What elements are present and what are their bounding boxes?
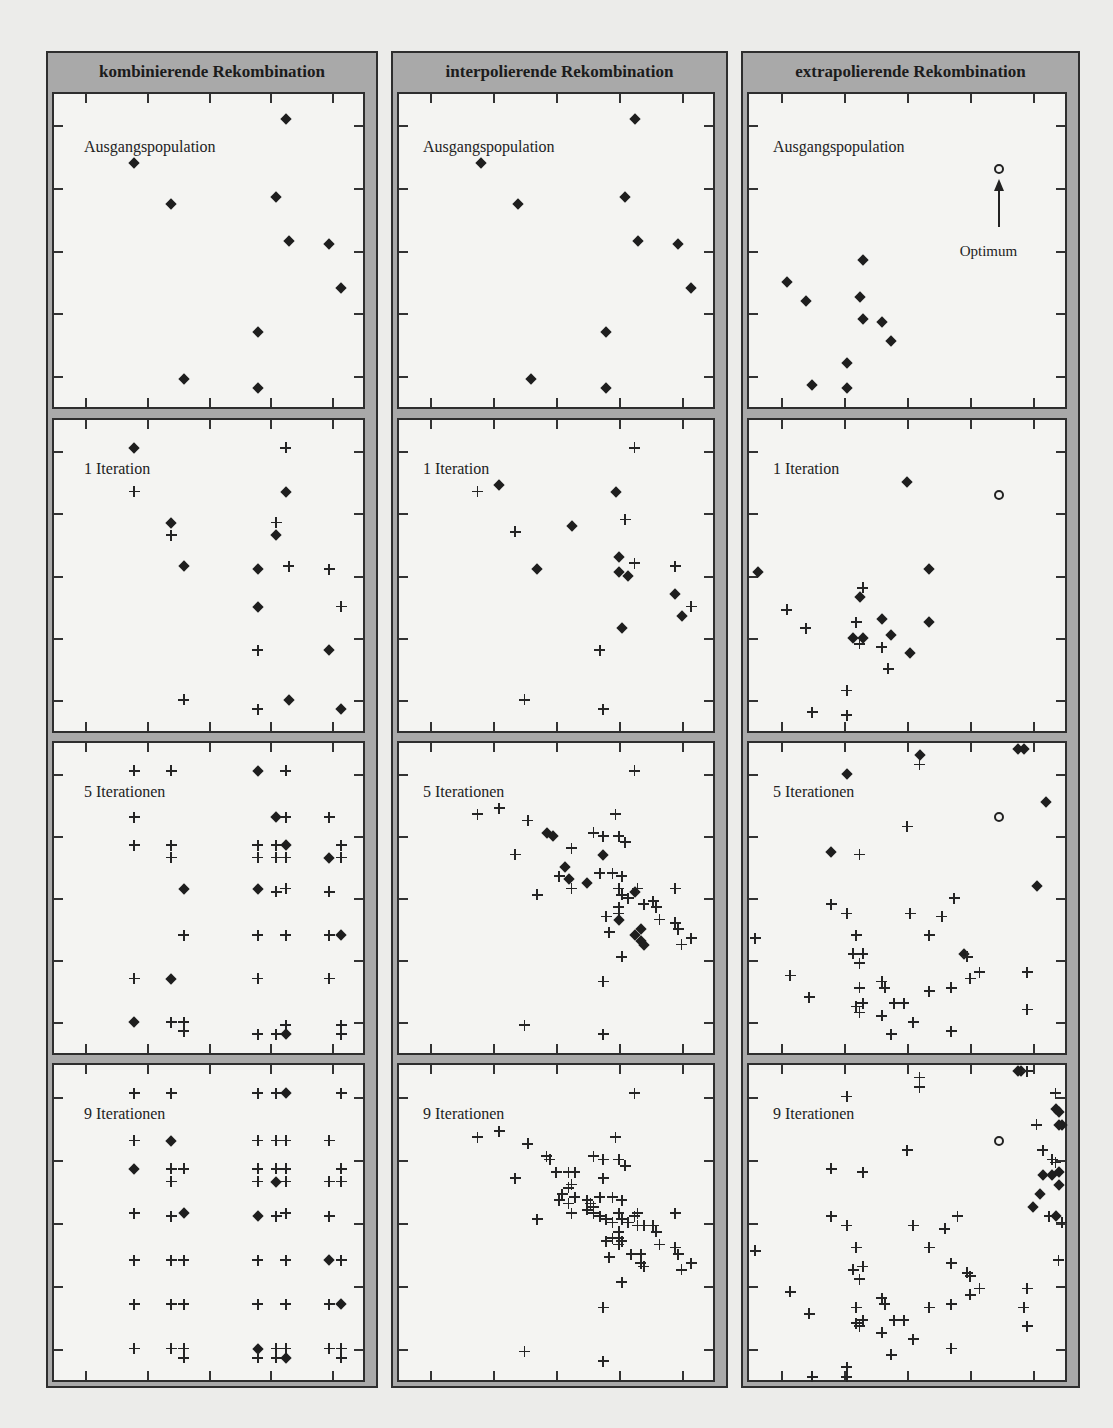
- x-tick: [970, 398, 972, 407]
- y-tick: [354, 188, 363, 190]
- y-tick: [354, 700, 363, 702]
- parent-diamond-marker: [525, 373, 536, 384]
- x-tick: [844, 722, 846, 731]
- x-tick: [1033, 420, 1035, 429]
- offspring-plus-marker: [924, 986, 935, 997]
- offspring-plus-marker: [1022, 967, 1033, 978]
- parent-diamond-marker: [129, 1016, 140, 1027]
- offspring-plus-marker: [129, 973, 140, 984]
- offspring-plus-marker: [673, 924, 684, 935]
- y-tick: [1056, 376, 1065, 378]
- parent-diamond-marker: [129, 157, 140, 168]
- offspring-plus-marker: [129, 1088, 140, 1099]
- y-tick: [354, 1286, 363, 1288]
- offspring-plus-marker: [324, 1176, 335, 1187]
- y-tick: [1056, 1349, 1065, 1351]
- offspring-plus-marker: [594, 645, 605, 656]
- offspring-plus-marker: [252, 1176, 263, 1187]
- scatter-panel-r4-c3: 9 Iterationen: [747, 1063, 1067, 1382]
- y-tick: [399, 125, 408, 127]
- parent-diamond-marker: [923, 564, 934, 575]
- x-tick: [1033, 94, 1035, 103]
- y-tick: [749, 638, 758, 640]
- offspring-plus-marker: [632, 883, 643, 894]
- offspring-plus-marker: [336, 1163, 347, 1174]
- x-tick: [332, 398, 334, 407]
- x-tick: [430, 94, 432, 103]
- offspring-plus-marker: [914, 759, 925, 770]
- figure-column-3: extrapolierende RekombinationAusgangspop…: [741, 51, 1080, 1388]
- x-tick: [493, 1065, 495, 1074]
- parent-diamond-marker: [252, 1211, 263, 1222]
- parent-diamond-marker: [283, 235, 294, 246]
- offspring-plus-marker: [178, 1352, 189, 1363]
- y-tick: [704, 960, 713, 962]
- parent-diamond-marker: [531, 564, 542, 575]
- parent-diamond-marker: [513, 198, 524, 209]
- y-tick: [354, 960, 363, 962]
- offspring-plus-marker: [898, 1315, 909, 1326]
- x-tick: [619, 398, 621, 407]
- parent-diamond-marker: [336, 930, 347, 941]
- iteration-label: 9 Iterationen: [423, 1105, 504, 1123]
- y-tick: [1056, 960, 1065, 962]
- y-tick: [1056, 638, 1065, 640]
- scatter-panel-r2-c2: 1 Iteration: [397, 418, 715, 733]
- parent-diamond-marker: [613, 551, 624, 562]
- x-tick: [493, 420, 495, 429]
- x-tick: [844, 743, 846, 752]
- offspring-plus-marker: [854, 638, 865, 649]
- iteration-label: 5 Iterationen: [773, 783, 854, 801]
- y-tick: [399, 836, 408, 838]
- y-tick: [749, 1349, 758, 1351]
- y-tick: [399, 638, 408, 640]
- x-tick: [556, 94, 558, 103]
- offspring-plus-marker: [841, 710, 852, 721]
- offspring-plus-marker: [974, 967, 985, 978]
- y-tick: [54, 251, 63, 253]
- y-tick: [399, 1349, 408, 1351]
- offspring-plus-marker: [129, 486, 140, 497]
- offspring-plus-marker: [962, 951, 973, 962]
- x-tick: [147, 94, 149, 103]
- offspring-plus-marker: [616, 1277, 627, 1288]
- parent-diamond-marker: [876, 317, 887, 328]
- x-tick: [430, 1065, 432, 1074]
- offspring-plus-marker: [952, 1211, 963, 1222]
- offspring-plus-marker: [252, 973, 263, 984]
- parent-diamond-marker: [857, 314, 868, 325]
- x-tick: [844, 94, 846, 103]
- offspring-plus-marker: [886, 1029, 897, 1040]
- x-tick: [781, 398, 783, 407]
- offspring-plus-marker: [324, 1343, 335, 1354]
- parent-diamond-marker: [323, 852, 334, 863]
- x-tick: [1033, 743, 1035, 752]
- optimum-annotation: Optimum: [960, 243, 1018, 260]
- x-tick: [332, 1065, 334, 1074]
- parent-diamond-marker: [252, 601, 263, 612]
- offspring-plus-marker: [939, 1223, 950, 1234]
- parent-diamond-marker: [280, 113, 291, 124]
- offspring-plus-marker: [883, 663, 894, 674]
- x-tick: [781, 1371, 783, 1380]
- x-tick: [270, 398, 272, 407]
- x-tick: [781, 743, 783, 752]
- y-tick: [54, 125, 63, 127]
- arrow-up-icon: [994, 179, 1004, 191]
- parent-diamond-marker: [271, 192, 282, 203]
- x-tick: [844, 1044, 846, 1053]
- parent-diamond-marker: [271, 529, 282, 540]
- offspring-plus-marker: [280, 930, 291, 941]
- parent-diamond-marker: [283, 694, 294, 705]
- offspring-plus-marker: [673, 1249, 684, 1260]
- y-tick: [704, 576, 713, 578]
- offspring-plus-marker: [598, 1302, 609, 1313]
- offspring-plus-marker: [336, 1176, 347, 1187]
- offspring-plus-marker: [676, 939, 687, 950]
- x-tick: [619, 1371, 621, 1380]
- y-tick: [399, 1286, 408, 1288]
- offspring-plus-marker: [598, 704, 609, 715]
- x-tick: [493, 1371, 495, 1380]
- x-tick: [209, 420, 211, 429]
- y-tick: [704, 1286, 713, 1288]
